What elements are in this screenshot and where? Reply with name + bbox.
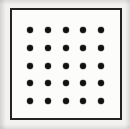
grid-dot [63, 45, 69, 51]
grid-dot [63, 98, 69, 104]
grid-dot [63, 63, 69, 69]
grid-dot [45, 80, 51, 86]
grid-dot [80, 98, 86, 104]
grid-dot [80, 45, 86, 51]
grid-dot [98, 45, 104, 51]
grid-dot [27, 27, 33, 33]
grid-dot [45, 27, 51, 33]
grid-dot [27, 63, 33, 69]
grid-dot [98, 63, 104, 69]
grid-dot [80, 63, 86, 69]
dot-grid-container [12, 10, 120, 118]
rectangular-border [10, 8, 122, 120]
grid-dot [45, 63, 51, 69]
grid-dot [27, 98, 33, 104]
grid-dot [80, 80, 86, 86]
figure-canvas [0, 0, 130, 129]
grid-dot [45, 98, 51, 104]
grid-dot [27, 45, 33, 51]
grid-dot [80, 27, 86, 33]
grid-dot [98, 98, 104, 104]
grid-dot [27, 80, 33, 86]
grid-dot [98, 27, 104, 33]
grid-dot [63, 80, 69, 86]
grid-dot [98, 80, 104, 86]
grid-dot [45, 45, 51, 51]
grid-dot [63, 27, 69, 33]
